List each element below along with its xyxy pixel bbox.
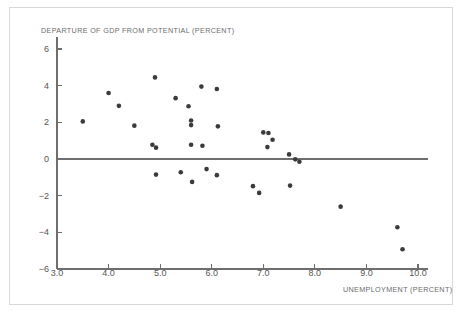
data-point bbox=[189, 118, 194, 123]
data-point bbox=[261, 130, 266, 135]
data-point bbox=[266, 131, 271, 136]
data-point bbox=[288, 183, 293, 188]
data-point bbox=[400, 247, 405, 252]
scatter-plot bbox=[0, 0, 465, 325]
data-point bbox=[293, 157, 298, 162]
data-point bbox=[106, 91, 111, 96]
data-point bbox=[251, 184, 256, 189]
data-point bbox=[132, 123, 137, 128]
data-point bbox=[190, 180, 195, 185]
data-point bbox=[215, 173, 220, 178]
data-point bbox=[117, 104, 122, 109]
data-point bbox=[395, 225, 400, 230]
data-point bbox=[154, 145, 159, 150]
data-point bbox=[173, 96, 178, 101]
data-point bbox=[154, 172, 159, 177]
data-point bbox=[216, 124, 221, 129]
data-point bbox=[199, 84, 204, 89]
data-point bbox=[297, 159, 302, 164]
data-point bbox=[270, 137, 275, 142]
data-points-group bbox=[80, 75, 404, 251]
data-point bbox=[204, 167, 209, 172]
data-point bbox=[178, 170, 183, 175]
data-point bbox=[200, 144, 205, 149]
data-point bbox=[189, 142, 194, 147]
data-point bbox=[153, 75, 158, 80]
data-point bbox=[265, 145, 270, 150]
data-point bbox=[338, 204, 343, 209]
axes-group bbox=[57, 37, 428, 269]
data-point bbox=[287, 152, 292, 157]
data-point bbox=[80, 119, 85, 124]
data-point bbox=[189, 123, 194, 128]
data-point bbox=[215, 87, 220, 92]
data-point bbox=[186, 104, 191, 109]
data-point bbox=[150, 142, 155, 147]
data-point bbox=[257, 191, 262, 196]
chart-figure: DEPARTURE OF GDP FROM POTENTIAL (PERCENT… bbox=[0, 0, 465, 325]
